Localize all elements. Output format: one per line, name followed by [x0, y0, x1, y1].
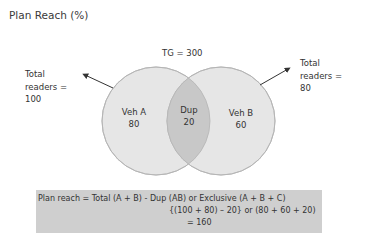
overlap-text: Dup 20	[172, 104, 206, 128]
formula-line-2: {(100 + 80) – 20} or (80 + 60 + 20)	[169, 206, 316, 215]
formula-box: Plan reach = Total (A + B) - Dup (AB) or…	[36, 190, 322, 233]
dup-value: 20	[172, 116, 206, 128]
veh-b-label: Veh B	[218, 107, 264, 119]
formula-line-3: = 160	[187, 218, 212, 227]
veh-a-region: Veh A 80	[111, 106, 157, 130]
dup-label: Dup	[172, 104, 206, 116]
left-arrow-icon	[85, 75, 113, 88]
veh-a-label: Veh A	[111, 106, 157, 118]
veh-a-value: 80	[111, 118, 157, 130]
veh-b-value: 60	[218, 119, 264, 131]
veh-b-region: Veh B 60	[218, 107, 264, 131]
formula-line-1: Plan reach = Total (A + B) - Dup (AB) or…	[38, 194, 286, 203]
right-arrow-icon	[260, 69, 288, 85]
